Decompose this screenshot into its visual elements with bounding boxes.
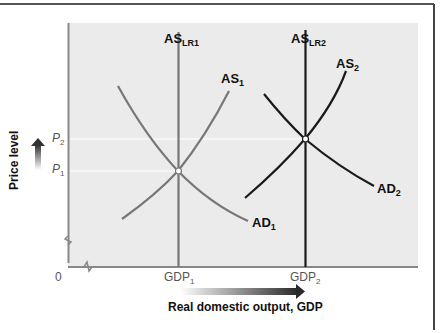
as2-label: AS2 (336, 56, 359, 73)
price-up-arrow-icon (31, 138, 45, 170)
ad1-label: AD1 (252, 215, 276, 232)
y-axis (65, 23, 71, 263)
p1-tick-label: P1 (52, 162, 64, 178)
as2-curve (245, 71, 346, 198)
as-lr1-label: ASLR1 (164, 31, 199, 48)
x-axis (68, 262, 418, 271)
ad1-curve (118, 86, 248, 221)
y-axis-title: Price level (7, 131, 21, 190)
gdp2-tick-label: GDP2 (290, 270, 320, 286)
gdp-right-arrow-icon (180, 284, 305, 299)
gdp1-tick-label: GDP1 (164, 270, 194, 286)
as-lr2-label: ASLR2 (291, 31, 326, 48)
as1-label: AS1 (221, 71, 244, 88)
ad2-curve (264, 94, 374, 186)
origin-label: 0 (55, 270, 62, 284)
ad2-label: AD2 (377, 181, 401, 198)
equilibrium-2-point (303, 136, 309, 142)
chart-svg (0, 0, 444, 333)
equilibrium-1-point (176, 168, 182, 174)
p2-tick-label: P2 (52, 131, 64, 147)
x-axis-title: Real domestic output, GDP (168, 300, 323, 314)
